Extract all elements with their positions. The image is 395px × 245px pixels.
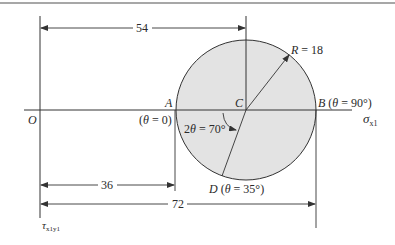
radius-label: R = 18: [290, 43, 323, 57]
point-a-label: A: [164, 96, 173, 110]
origin-label: O: [28, 113, 37, 127]
dimension-36-label: 36: [101, 178, 113, 192]
center-label: C: [235, 96, 244, 110]
diagram-canvas: 54 R = 18 2θ = 70° O A (θ = 0) C B (θ = …: [0, 0, 395, 245]
mohr-circle-diagram: 54 R = 18 2θ = 70° O A (θ = 0) C B (θ = …: [0, 0, 395, 245]
tau-axis-label: τx1y1: [42, 219, 60, 233]
point-d-label: D (θ = 35°): [208, 182, 264, 196]
angle-label: 2θ = 70°: [184, 122, 226, 136]
sigma-axis-label: σx1: [363, 111, 377, 128]
point-b-label: B (θ = 90°): [318, 96, 372, 110]
point-a-note: (θ = 0): [139, 113, 172, 127]
dimension-54-label: 54: [136, 21, 148, 35]
dimension-72-label: 72: [172, 197, 184, 211]
